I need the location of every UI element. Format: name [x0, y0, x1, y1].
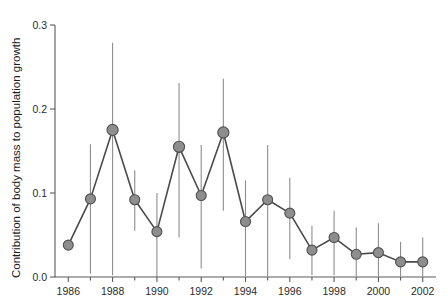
y-tick-label: 0.3 — [32, 19, 47, 31]
x-tick-label: 1990 — [145, 285, 169, 297]
data-point — [173, 141, 184, 152]
data-point — [351, 249, 361, 259]
svg-text:Contribution of body mass to p: Contribution of body mass to population … — [10, 38, 22, 278]
data-point — [63, 240, 73, 250]
x-tick-label: 2002 — [411, 285, 435, 297]
data-point — [85, 194, 95, 204]
x-tick-label: 1992 — [190, 285, 214, 297]
data-point — [107, 124, 118, 135]
data-point — [285, 208, 295, 218]
data-point — [130, 195, 140, 205]
x-tick-label: 1986 — [57, 285, 81, 297]
y-tick-label: 0.2 — [32, 103, 47, 115]
data-point — [241, 217, 251, 227]
x-tick-label: 1994 — [234, 285, 258, 297]
data-point — [152, 227, 162, 237]
data-point — [329, 233, 339, 243]
data-point — [263, 195, 273, 205]
x-tick-label: 2000 — [367, 285, 391, 297]
y-tick-label: 0.0 — [32, 271, 47, 283]
data-point — [396, 257, 406, 267]
line-chart: 0.00.10.20.31986198819901992199419961998… — [0, 0, 447, 308]
data-point — [218, 127, 229, 138]
figure-container: 0.00.10.20.31986198819901992199419961998… — [0, 0, 447, 308]
data-point — [418, 257, 428, 267]
y-axis-title: Contribution of body mass to population … — [10, 38, 22, 278]
data-point — [307, 245, 317, 255]
x-tick-label: 1988 — [101, 285, 125, 297]
y-tick-label: 0.1 — [32, 187, 47, 199]
data-point — [373, 248, 383, 258]
x-tick-label: 1996 — [278, 285, 302, 297]
data-point — [196, 191, 206, 201]
x-tick-label: 1998 — [322, 285, 346, 297]
